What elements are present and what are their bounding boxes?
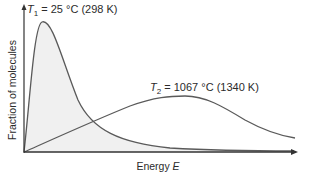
t2-label: T2 = 1067 °C (1340 K) xyxy=(150,81,259,96)
maxwell-boltzmann-chart: T1 = 25 °C (298 K) T2 = 1067 °C (1340 K)… xyxy=(0,0,312,180)
y-axis-arrow-icon xyxy=(22,4,27,10)
y-axis-label: Fraction of molecules xyxy=(6,40,18,140)
x-axis-arrow-icon xyxy=(291,149,298,155)
t1-label: T1 = 25 °C (298 K) xyxy=(27,3,118,18)
x-axis-label: Energy E xyxy=(136,160,180,172)
